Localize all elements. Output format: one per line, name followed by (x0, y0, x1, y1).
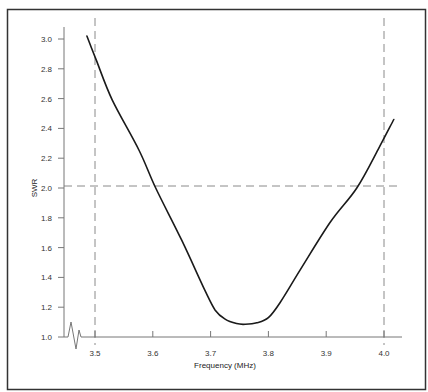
y-tick-label: 1.8 (41, 214, 53, 223)
x-tick-label: 4.0 (378, 349, 390, 358)
x-axis-title: Frequency (MHz) (194, 361, 256, 370)
y-tick-label: 2.6 (41, 95, 53, 104)
y-tick-label: 2.2 (41, 154, 53, 163)
chart-frame (8, 10, 426, 390)
y-tick-label: 1.6 (41, 244, 53, 253)
x-tick-label: 3.5 (89, 349, 101, 358)
x-tick-label: 3.8 (263, 349, 275, 358)
y-tick-label: 1.0 (41, 333, 53, 342)
y-tick-label: 1.2 (41, 303, 53, 312)
swr-chart: 1.01.21.41.61.82.02.22.42.62.83.0 3.53.6… (0, 0, 428, 392)
y-tick-label: 2.8 (41, 65, 53, 74)
x-tick-label: 3.6 (147, 349, 159, 358)
y-axis-title: SWR (30, 178, 39, 197)
x-tick-label: 3.9 (321, 349, 333, 358)
x-tick-label: 3.7 (205, 349, 217, 358)
y-tick-label: 3.0 (41, 35, 53, 44)
y-tick-label: 2.4 (41, 124, 53, 133)
y-tick-label: 2.0 (41, 184, 53, 193)
y-tick-label: 1.4 (41, 273, 53, 282)
